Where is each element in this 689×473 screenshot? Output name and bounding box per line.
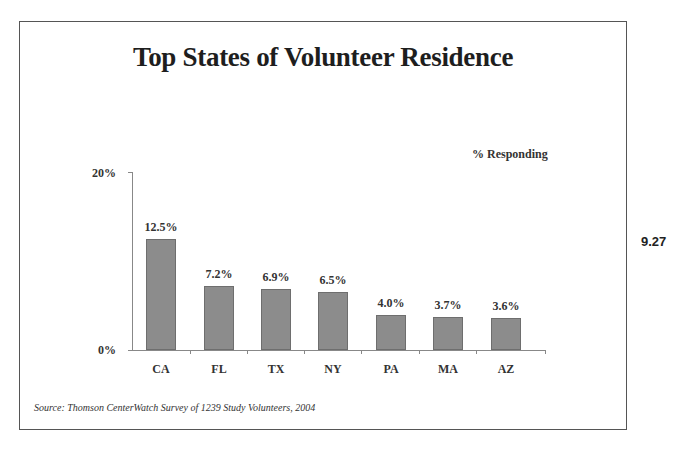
value-label-az: 3.6%	[476, 299, 536, 314]
value-label-pa: 4.0%	[361, 296, 421, 311]
x-axis-tick	[545, 350, 546, 354]
value-label-ma: 3.7%	[418, 298, 478, 313]
y-axis	[132, 172, 133, 351]
source-note: Source: Thomson CenterWatch Survey of 12…	[34, 402, 315, 413]
x-axis-tick	[190, 350, 191, 354]
x-axis-tick	[247, 350, 248, 354]
y-tick-0: 0%	[76, 343, 116, 358]
bar-ny	[318, 292, 348, 350]
bar-tx	[261, 289, 291, 350]
x-axis-tick	[304, 350, 305, 354]
bar-ma	[433, 317, 463, 350]
bar-fl	[204, 286, 234, 350]
series-legend: % Responding	[472, 147, 548, 162]
slide-frame: Top States of Volunteer Residence % Resp…	[19, 21, 627, 430]
chart-title: Top States of Volunteer Residence	[20, 42, 626, 73]
category-label-ca: CA	[131, 362, 191, 377]
category-label-ny: NY	[303, 362, 363, 377]
x-axis	[132, 350, 546, 351]
value-label-ca: 12.5%	[131, 220, 191, 235]
category-label-pa: PA	[361, 362, 421, 377]
x-axis-tick	[476, 350, 477, 354]
page-number: 9.27	[641, 234, 666, 249]
value-label-fl: 7.2%	[189, 267, 249, 282]
value-label-ny: 6.5%	[303, 273, 363, 288]
category-label-tx: TX	[246, 362, 306, 377]
bar-az	[491, 318, 521, 350]
value-label-tx: 6.9%	[246, 270, 306, 285]
y-tick-20: 20%	[76, 166, 116, 181]
x-axis-tick	[361, 350, 362, 354]
x-axis-tick	[419, 350, 420, 354]
category-label-az: AZ	[476, 362, 536, 377]
bar-ca	[146, 239, 176, 350]
bar-pa	[376, 315, 406, 350]
category-label-fl: FL	[189, 362, 249, 377]
category-label-ma: MA	[418, 362, 478, 377]
y-axis-tick	[128, 172, 133, 173]
